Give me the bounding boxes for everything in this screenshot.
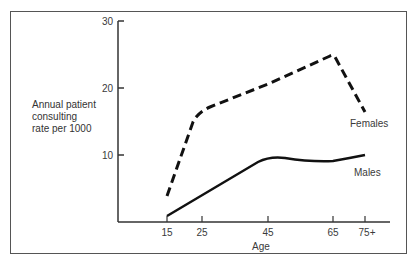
y-axis: 30 20 10: [102, 16, 124, 222]
x-tick-75plus: 75+: [359, 227, 376, 238]
series-males-label: Males: [354, 167, 381, 178]
series-females-label: Females: [350, 118, 388, 129]
y-tick-20: 20: [102, 83, 114, 94]
chart-plot: 30 20 10 15 25 45 65 75+ Age Females Mal…: [0, 0, 416, 267]
series-females-line: [167, 55, 365, 196]
x-tick-25: 25: [196, 227, 208, 238]
series-males-line: [167, 155, 365, 216]
x-axis-label: Age: [252, 241, 270, 252]
x-tick-45: 45: [262, 227, 274, 238]
x-tick-65: 65: [327, 227, 339, 238]
y-tick-30: 30: [102, 16, 114, 27]
x-axis: 15 25 45 65 75+ Age: [118, 216, 390, 252]
y-tick-10: 10: [102, 150, 114, 161]
x-tick-15: 15: [161, 227, 173, 238]
